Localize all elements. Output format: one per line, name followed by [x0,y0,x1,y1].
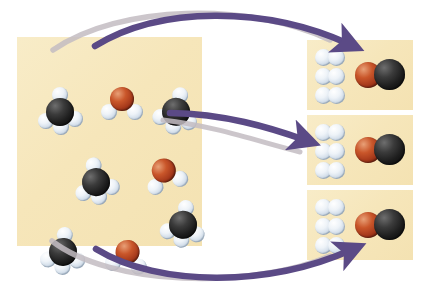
arrow-bottom [52,241,351,279]
arrow-top [53,13,349,50]
arrow-middle [163,113,305,152]
figure-canvas [0,0,431,289]
arrow-layer [0,0,431,289]
